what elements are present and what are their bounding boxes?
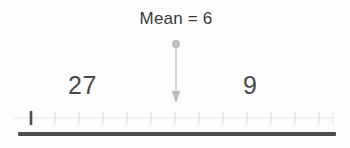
diagram-canvas: Mean = 6 27 9 <box>0 0 350 148</box>
mean-pointer-dot <box>172 40 180 48</box>
value-label-left: 27 <box>68 71 97 99</box>
baseline-rule <box>18 132 336 136</box>
number-line <box>12 108 336 128</box>
mean-pointer-head <box>172 91 181 103</box>
number-line-svg <box>12 108 336 128</box>
mean-callout-label: Mean = 6 <box>0 9 350 29</box>
mean-callout-text: Mean = 6 <box>140 9 213 28</box>
value-label-right: 9 <box>243 71 257 99</box>
mean-pointer-arrow <box>167 38 185 104</box>
mean-pointer-arrow-svg <box>167 38 185 104</box>
